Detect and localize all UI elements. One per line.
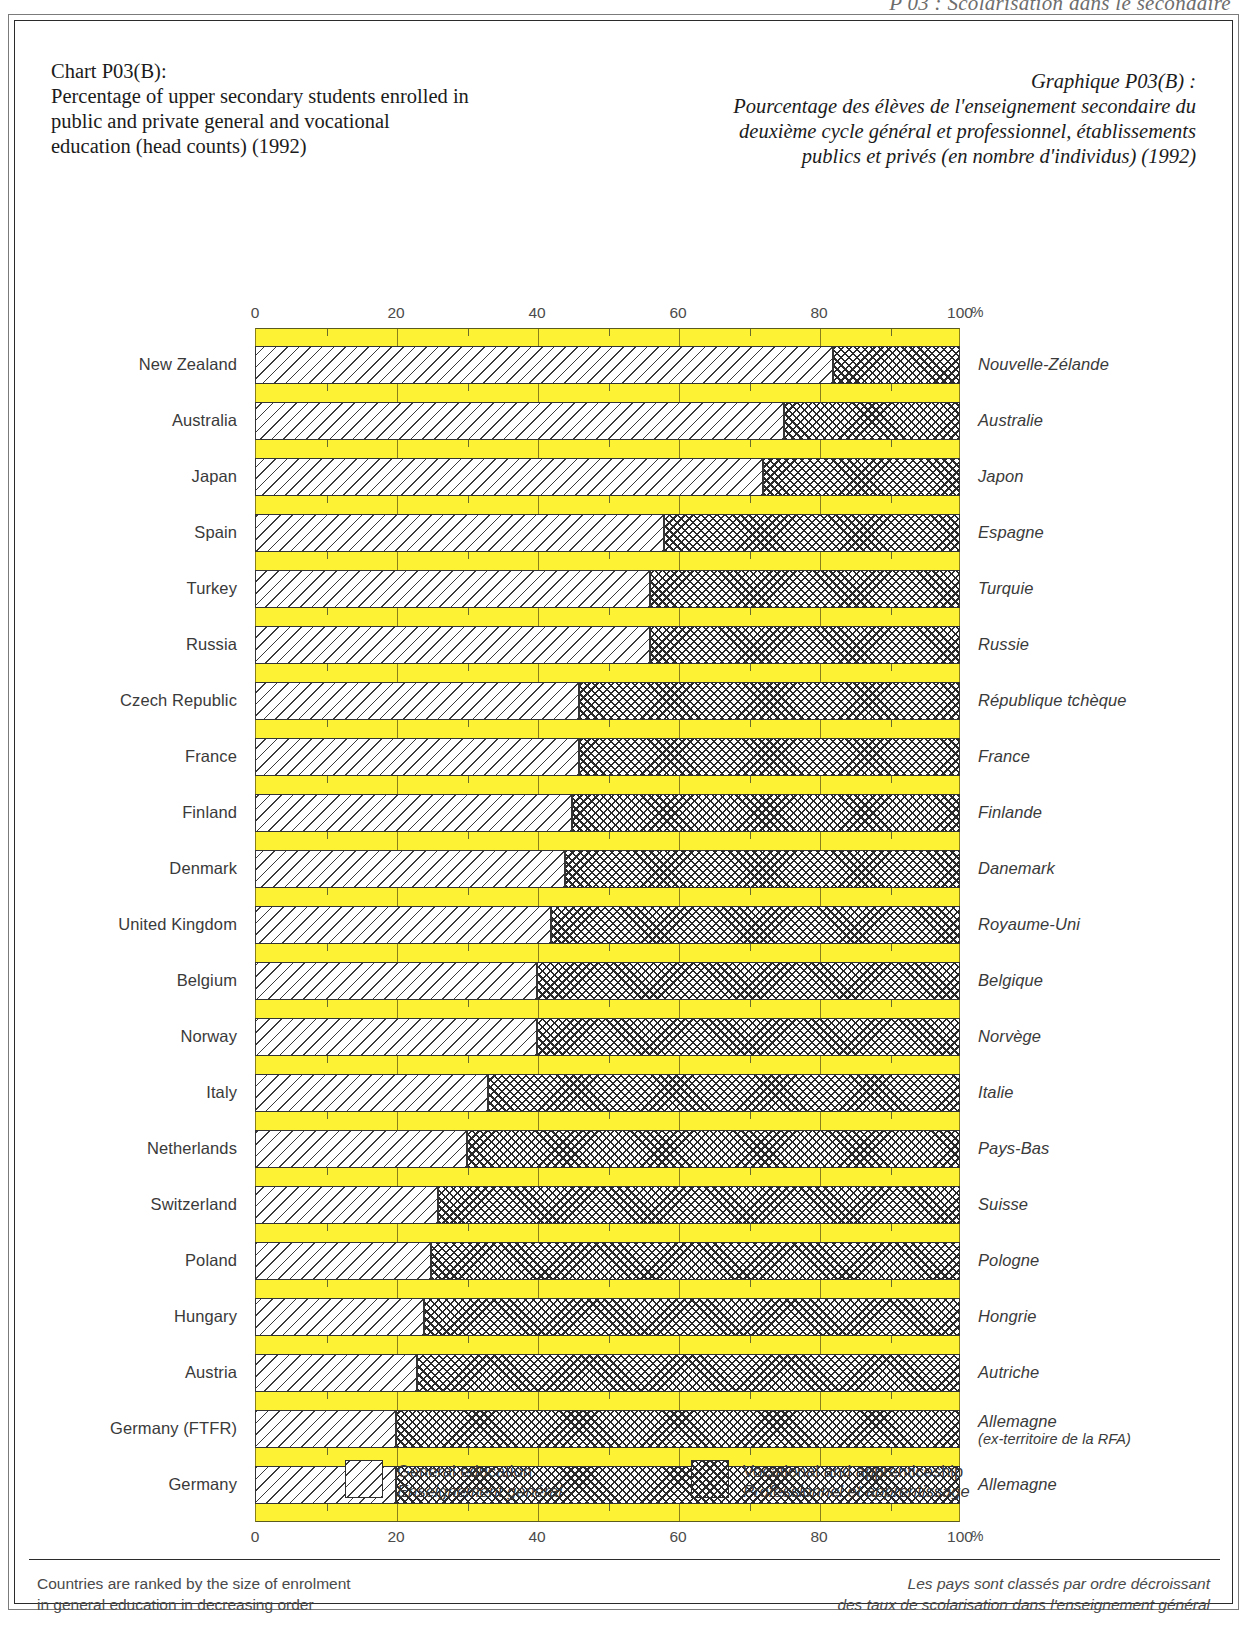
band-minor-tick — [750, 888, 751, 895]
bar-segment-general — [255, 570, 650, 608]
country-label-en: Russia — [37, 635, 237, 654]
axis-band — [255, 1280, 960, 1298]
bar-segment-vocational — [488, 1074, 960, 1112]
country-label-fr: Finlande — [978, 803, 1255, 822]
band-gridline — [538, 496, 539, 514]
axis-band — [255, 776, 960, 794]
band-minor-tick — [327, 1000, 328, 1007]
bar-segment-general — [255, 458, 763, 496]
country-label-fr: Italie — [978, 1083, 1255, 1102]
bar-segment-vocational — [650, 570, 960, 608]
bar-row: Germany (FTFR)Allemagne(ex-territoire de… — [255, 1410, 960, 1448]
country-label-fr: Japon — [978, 467, 1255, 486]
band-minor-tick — [327, 664, 328, 671]
band-minor-tick — [891, 888, 892, 895]
chart-plot-area: 020406080100% New ZealandNouvelle-Zéland… — [255, 304, 960, 1304]
country-label-en: Switzerland — [37, 1195, 237, 1214]
band-gridline — [397, 384, 398, 402]
band-minor-tick — [750, 1168, 751, 1175]
band-minor-tick — [750, 1224, 751, 1231]
band-gridline — [679, 384, 680, 402]
bar-row: ItalyItalie — [255, 1074, 960, 1112]
bar-segment-vocational — [467, 1130, 961, 1168]
country-label-fr-sub: (ex-territoire de la RFA) — [978, 1431, 1255, 1447]
band-minor-tick — [609, 944, 610, 951]
band-minor-tick — [609, 384, 610, 391]
country-label-en: New Zealand — [37, 355, 237, 374]
bar-segment-general — [255, 1242, 431, 1280]
band-gridline — [679, 944, 680, 962]
band-gridline — [679, 329, 680, 346]
band-minor-tick — [468, 1056, 469, 1063]
band-minor-tick — [468, 664, 469, 671]
band-gridline — [397, 776, 398, 794]
x-axis-tick-0: 0 — [251, 304, 260, 322]
band-gridline — [820, 664, 821, 682]
x-axis-top: 020406080100% — [255, 304, 960, 322]
band-gridline — [397, 552, 398, 570]
country-label-en: Finland — [37, 803, 237, 822]
band-gridline — [538, 776, 539, 794]
band-minor-tick — [468, 1280, 469, 1287]
band-minor-tick — [468, 1392, 469, 1399]
bar-row: PolandPologne — [255, 1242, 960, 1280]
band-minor-tick — [327, 832, 328, 839]
bar-segment-vocational — [784, 402, 960, 440]
country-label-en: Denmark — [37, 859, 237, 878]
axis-band — [255, 552, 960, 570]
band-gridline — [679, 1336, 680, 1354]
bar-segment-general — [255, 1298, 424, 1336]
band-minor-tick — [609, 888, 610, 895]
band-minor-tick — [891, 832, 892, 839]
country-label-fr: Australie — [978, 411, 1255, 430]
axis-band — [255, 664, 960, 682]
x-axis-tick-20: 20 — [387, 304, 404, 322]
country-label-en: Belgium — [37, 971, 237, 990]
band-minor-tick — [750, 1056, 751, 1063]
country-label-fr: Pays-Bas — [978, 1139, 1255, 1158]
band-minor-tick — [891, 1000, 892, 1007]
band-gridline — [679, 720, 680, 738]
band-gridline — [820, 1336, 821, 1354]
x-axis-tick-20: 20 — [387, 1528, 404, 1546]
band-gridline — [679, 664, 680, 682]
band-minor-tick — [891, 608, 892, 615]
band-minor-tick — [891, 1224, 892, 1231]
axis-band — [255, 888, 960, 906]
country-label-en: Netherlands — [37, 1139, 237, 1158]
band-minor-tick — [891, 1392, 892, 1399]
bar-segment-vocational — [763, 458, 960, 496]
band-minor-tick — [327, 1392, 328, 1399]
x-axis-tick-60: 60 — [669, 1528, 686, 1546]
x-axis-percent-symbol: % — [971, 304, 983, 320]
bar-row: SpainEspagne — [255, 514, 960, 552]
band-minor-tick — [609, 832, 610, 839]
bar-segment-vocational — [565, 850, 960, 888]
bar-segment-vocational — [833, 346, 960, 384]
axis-band — [255, 832, 960, 850]
band-minor-tick — [891, 720, 892, 727]
axis-band — [255, 496, 960, 514]
bar-segment-general — [255, 794, 572, 832]
x-axis-tick-100: 100 — [947, 1528, 973, 1546]
band-gridline — [679, 888, 680, 906]
band-gridline — [397, 888, 398, 906]
bar-row: JapanJapon — [255, 458, 960, 496]
bar-row: TurkeyTurquie — [255, 570, 960, 608]
band-gridline — [820, 440, 821, 458]
band-minor-tick — [891, 496, 892, 503]
band-minor-tick — [327, 776, 328, 783]
band-minor-tick — [891, 552, 892, 559]
bar-row: Czech RepublicRépublique tchèque — [255, 682, 960, 720]
axis-band — [255, 1112, 960, 1130]
band-gridline — [820, 496, 821, 514]
band-gridline — [679, 496, 680, 514]
axis-band — [255, 1224, 960, 1242]
x-axis-tick-100: 100 — [947, 304, 973, 322]
band-minor-tick — [327, 1336, 328, 1343]
bar-segment-general — [255, 514, 664, 552]
bar-rows-container: New ZealandNouvelle-ZélandeAustraliaAust… — [255, 328, 960, 1522]
band-gridline — [820, 1224, 821, 1242]
band-gridline — [397, 1280, 398, 1298]
band-gridline — [538, 944, 539, 962]
